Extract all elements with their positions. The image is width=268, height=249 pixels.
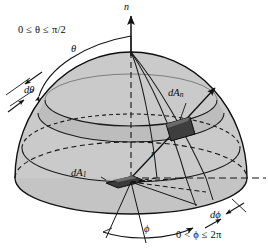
phi-label: ϕ <box>144 224 149 235</box>
radius-label: r <box>151 150 155 160</box>
area-normal-subscript: n <box>180 90 184 99</box>
diagram-canvas <box>0 0 268 249</box>
area-base-symbol: dA <box>71 167 83 178</box>
dtheta-arrow-upper <box>25 72 42 84</box>
phi-arc-tick <box>103 228 112 232</box>
area-base-subscript: 1 <box>83 170 87 179</box>
dtheta-label: dθ <box>24 85 34 96</box>
theta-label: θ <box>71 44 76 55</box>
phi-range-label: 0 < ϕ ≤ 2π <box>176 230 222 241</box>
theta-range-label: 0 ≤ θ ≤ π/2 <box>18 25 66 36</box>
area-base-label: dA1 <box>71 168 86 179</box>
normal-axis-label: n <box>124 2 129 12</box>
dphi-label: dϕ <box>210 210 221 221</box>
dphi-arrow-left <box>226 203 244 214</box>
dphi-guide-1 <box>232 199 246 212</box>
hemisphere-solid-angle-figure: 0 ≤ θ ≤ π/2 0 < ϕ ≤ 2π n θ dθ ϕ dϕ r dAn… <box>0 0 268 249</box>
area-normal-label: dAn <box>168 88 183 99</box>
area-normal-symbol: dA <box>168 87 180 98</box>
